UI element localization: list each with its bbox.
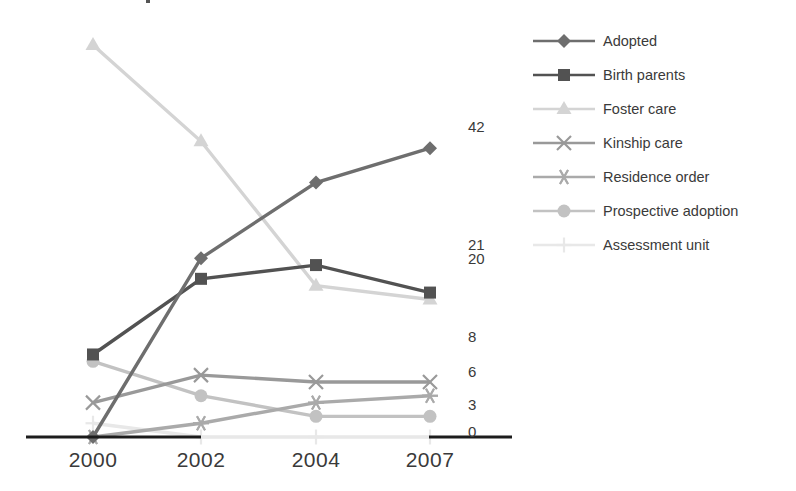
asterisk-icon: [531, 166, 597, 188]
legend-label: Prospective adoption: [603, 203, 738, 219]
legend-label: Adopted: [603, 33, 657, 49]
end-value-8: 8: [468, 328, 508, 345]
end-value-0: 0: [468, 423, 508, 440]
end-value-20: 20: [468, 250, 508, 267]
legend-label: Residence order: [603, 169, 709, 185]
series-foster-care: [86, 37, 438, 304]
chart-legend: AdoptedBirth parentsFoster careKinship c…: [531, 24, 796, 262]
legend-item-birth-parents[interactable]: Birth parents: [531, 58, 796, 92]
x-tick-2000: 2000: [53, 448, 133, 472]
plus-icon: [531, 234, 597, 256]
legend-label: Assessment unit: [603, 237, 709, 253]
x-tick-2004: 2004: [276, 448, 356, 472]
legend-label: Kinship care: [603, 135, 683, 151]
end-value-6: 6: [468, 363, 508, 380]
x-tick-2002: 2002: [161, 448, 241, 472]
line-chart: 2000200220042007 4221208630 AdoptedBirth…: [0, 0, 796, 491]
triangle-icon: [531, 98, 597, 120]
series-birth-parents: [87, 259, 436, 360]
cross-icon: [531, 132, 597, 154]
legend-item-adopted[interactable]: Adopted: [531, 24, 796, 58]
square-icon: [531, 64, 597, 86]
series-layer: [85, 37, 438, 445]
circle-icon: [531, 200, 597, 222]
end-value-3: 3: [468, 396, 508, 413]
legend-item-residence-order[interactable]: Residence order: [531, 160, 796, 194]
diamond-icon: [531, 30, 597, 52]
legend-item-kinship-care[interactable]: Kinship care: [531, 126, 796, 160]
legend-label: Foster care: [603, 101, 676, 117]
legend-item-foster-care[interactable]: Foster care: [531, 92, 796, 126]
legend-item-prospective-adoption[interactable]: Prospective adoption: [531, 194, 796, 228]
end-value-42: 42: [468, 118, 508, 135]
plot-area: [0, 0, 520, 491]
legend-item-assessment-unit[interactable]: Assessment unit: [531, 228, 796, 262]
x-tick-2007: 2007: [390, 448, 470, 472]
legend-label: Birth parents: [603, 67, 685, 83]
